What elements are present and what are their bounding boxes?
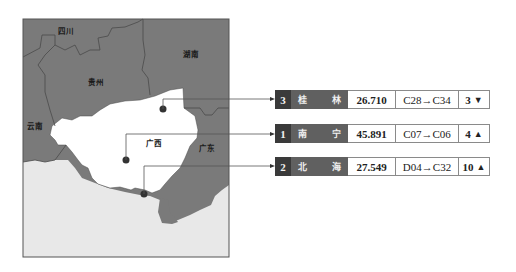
label-guizhou: 贵州 [88, 76, 103, 87]
city-box-nanning: 1 南宁 45.891 C07→C06 4▲ [275, 124, 490, 143]
city-code-change: C07→C06 [395, 124, 459, 143]
city-name-char: 林 [332, 93, 341, 106]
arrow-up-icon: ▲ [477, 162, 486, 172]
rank-badge: 2 [275, 157, 291, 176]
rank-change: 3▼ [458, 90, 490, 109]
label-guangdong: 广东 [199, 142, 214, 153]
rank-change-value: 3 [465, 94, 471, 106]
rank-badge: 3 [275, 90, 291, 109]
arrow-down-icon: ▼ [474, 95, 483, 105]
city-name-char: 桂 [298, 93, 307, 106]
city-box-beihai: 2 北海 27.549 D04→C32 10▲ [275, 157, 490, 176]
city-value: 45.891 [348, 124, 396, 143]
arrow-up-icon: ▲ [474, 129, 483, 139]
city-name-char: 宁 [332, 127, 341, 140]
city-name: 桂林 [291, 90, 348, 109]
city-code-change: C28→C34 [395, 90, 459, 109]
rank-badge: 1 [275, 124, 291, 143]
rank-change-value: 4 [465, 128, 471, 140]
rank-change: 4▲ [458, 124, 490, 143]
city-name-char: 海 [332, 160, 341, 173]
city-name-char: 北 [298, 160, 307, 173]
rank-change: 10▲ [458, 157, 490, 176]
city-box-guilin: 3 桂林 26.710 C28→C34 3▼ [275, 90, 490, 109]
city-value: 26.710 [348, 90, 396, 109]
label-guangxi: 广西 [146, 137, 161, 148]
city-name-char: 南 [298, 127, 307, 140]
city-name: 北海 [291, 157, 348, 176]
label-hunan: 湖南 [183, 48, 198, 59]
city-code-change: D04→C32 [395, 157, 459, 176]
rank-change-value: 10 [463, 161, 474, 173]
label-sichuan: 四川 [58, 25, 73, 36]
label-yunnan: 云南 [27, 120, 42, 131]
city-value: 27.549 [348, 157, 396, 176]
city-name: 南宁 [291, 124, 348, 143]
